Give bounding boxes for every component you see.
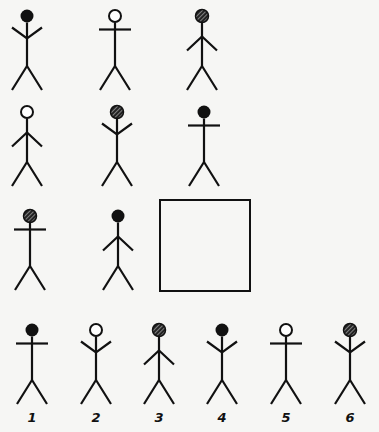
empty-head-icon	[90, 324, 102, 336]
option-figure-4[interactable]	[192, 316, 252, 408]
matrix-figure-r1c1	[0, 2, 57, 94]
matrix-figure-r3c2	[88, 202, 148, 294]
empty-head-icon	[280, 324, 292, 336]
solid-head-icon	[216, 324, 229, 337]
hatched-head-icon	[196, 10, 209, 23]
option-figure-5[interactable]	[256, 316, 316, 408]
missing-answer-box[interactable]	[159, 199, 251, 292]
hatched-head-icon	[344, 324, 357, 337]
option-label-4: 4	[207, 410, 237, 425]
option-figure-6[interactable]	[320, 316, 379, 408]
option-label-2: 2	[81, 410, 111, 425]
option-figure-3[interactable]	[129, 316, 189, 408]
matrix-figure-r3c1	[0, 202, 60, 294]
option-label-5: 5	[271, 410, 301, 425]
solid-head-icon	[21, 10, 34, 23]
matrix-figure-r2c1	[0, 98, 57, 190]
solid-head-icon	[112, 210, 125, 223]
option-figure-1[interactable]	[2, 316, 62, 408]
option-figure-2[interactable]	[66, 316, 126, 408]
hatched-head-icon	[111, 106, 124, 119]
option-label-1: 1	[17, 410, 47, 425]
solid-head-icon	[198, 106, 211, 119]
matrix-figure-r2c2	[87, 98, 147, 190]
hatched-head-icon	[153, 324, 166, 337]
solid-head-icon	[26, 324, 39, 337]
empty-head-icon	[21, 106, 33, 118]
option-label-6: 6	[335, 410, 365, 425]
matrix-figure-r1c2	[85, 2, 145, 94]
puzzle-stage: 1 2 3 4 5 6	[0, 0, 379, 432]
hatched-head-icon	[24, 210, 37, 223]
option-label-3: 3	[144, 410, 174, 425]
empty-head-icon	[109, 10, 121, 22]
matrix-figure-r2c3	[174, 98, 234, 190]
matrix-figure-r1c3	[172, 2, 232, 94]
